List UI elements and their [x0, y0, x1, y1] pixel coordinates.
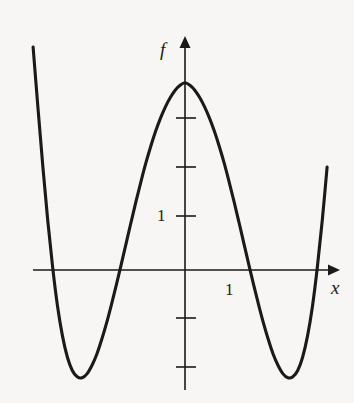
function-curve — [33, 47, 327, 378]
plot-canvas — [0, 0, 354, 403]
y-axis-tick-label-one: 1 — [157, 207, 166, 224]
axes-group — [33, 36, 340, 390]
y-axis-ticks — [176, 118, 196, 367]
y-axis-arrowhead — [180, 36, 191, 48]
function-plot-figure: f x 1 1 — [0, 0, 354, 403]
x-axis-label: x — [331, 278, 339, 297]
x-axis-tick-label-one: 1 — [225, 281, 234, 298]
y-axis-label: f — [160, 40, 165, 59]
x-axis-arrowhead — [328, 265, 340, 276]
